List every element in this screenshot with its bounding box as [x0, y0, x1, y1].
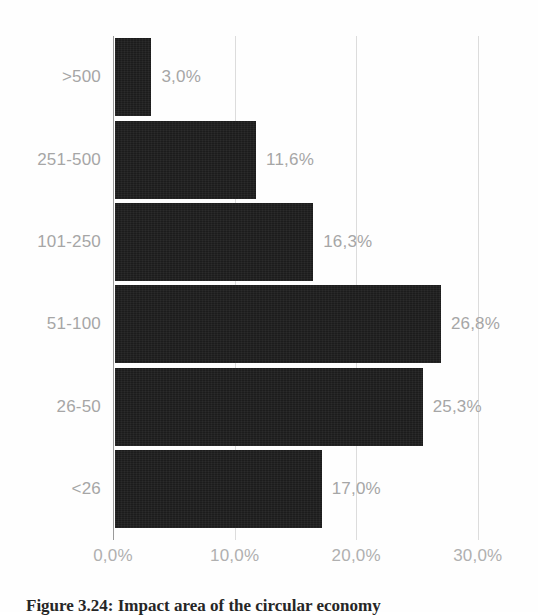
category-label->500: >500 [0, 67, 101, 87]
category-label-26-50: 26-50 [0, 397, 101, 417]
x-tick-label: 20,0% [332, 546, 381, 566]
bar-value-label: 25,3% [433, 397, 482, 417]
bar-value-label: 11,6% [266, 150, 314, 170]
bar-row: 25,3% [113, 368, 478, 446]
category-label-251-500: 251-500 [0, 150, 101, 170]
x-tick-label: 0,0% [93, 546, 133, 566]
figure-caption: Figure 3.24: Impact area of the circular… [26, 596, 526, 616]
bar-51-100[interactable] [115, 285, 441, 363]
category-label-51-100: 51-100 [0, 314, 101, 334]
bar-<26[interactable] [115, 450, 322, 528]
bar-row: 3,0% [113, 38, 478, 116]
plot-area: 3,0%11,6%16,3%26,8%25,3%17,0% [113, 36, 478, 530]
bar-value-label: 17,0% [332, 479, 381, 499]
x-tick-label: 10,0% [210, 546, 259, 566]
category-label-<26: <26 [0, 479, 101, 499]
x-tick-label: 30,0% [453, 546, 502, 566]
bar-value-label: 26,8% [451, 314, 500, 334]
bar-value-label: 3,0% [161, 67, 201, 87]
bar-101-250[interactable] [115, 203, 313, 281]
bar-row: 26,8% [113, 285, 478, 363]
category-label-101-250: 101-250 [0, 232, 101, 252]
bar-value-label: 16,3% [323, 232, 372, 252]
bar-row: 11,6% [113, 121, 478, 199]
bar-row: 16,3% [113, 203, 478, 281]
bar-row: 17,0% [113, 450, 478, 528]
bar-26-50[interactable] [115, 368, 423, 446]
bar->500[interactable] [115, 38, 151, 116]
bar-251-500[interactable] [115, 121, 256, 199]
